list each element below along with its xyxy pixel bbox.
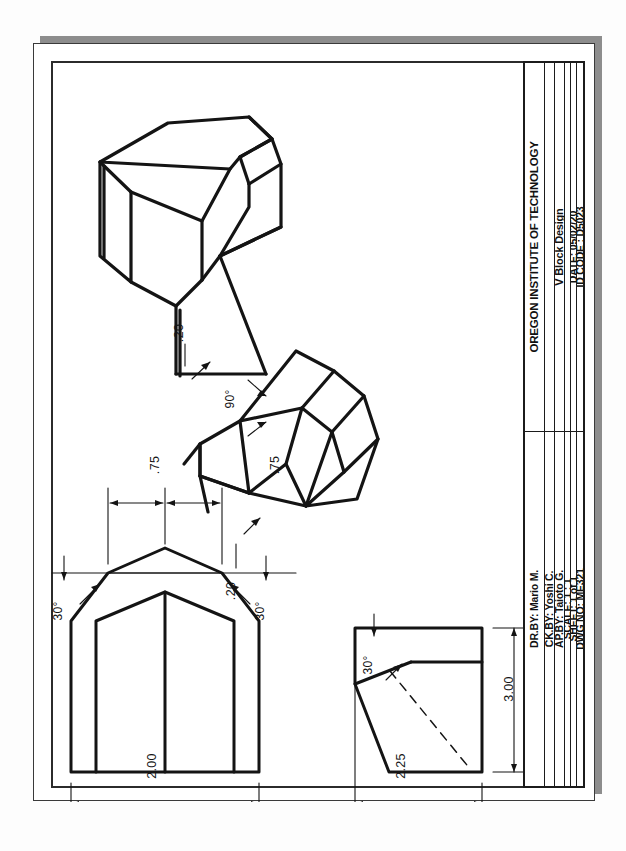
- dim-side-height: 3.00: [502, 676, 516, 702]
- title-block-column-6: ID CODE : D5023 DWG NO: ME321: [577, 63, 583, 786]
- title-block-column-3: V Block Design AP.BY: Taioto G.: [555, 63, 565, 786]
- drawing-sheet-root: .75 .75 2.00 30° 30° .20 90° .20 3.00 2.…: [0, 0, 626, 851]
- title-block-cell-drawing-title: V Block Design: [555, 63, 564, 432]
- date-label: DATE: 05/02/20: [571, 211, 576, 283]
- dim-chamfer-upper: .20: [172, 324, 186, 342]
- approved-by-label: AP.BY: Taioto G.: [555, 570, 564, 648]
- title-block-cell-id-code: ID CODE : D5023: [577, 63, 583, 432]
- title-block-cell-blank-upper-2: [565, 63, 570, 432]
- sheet-number-label: SHEET: 1 of 1: [571, 576, 576, 641]
- dim-side-angle: 30°: [361, 655, 375, 674]
- dim-front-right-width: .75: [268, 456, 282, 474]
- title-block-cell-sheet: SHEET: 1 of 1: [571, 432, 576, 786]
- organization-label: OREGON INSTITUTE OF TECHNOLOGY: [528, 141, 540, 352]
- dim-chamfer-lower: .20: [224, 582, 238, 600]
- title-block-column-1: OREGON INSTITUTE OF TECHNOLOGY DR.BY: Ma…: [525, 63, 545, 786]
- title-block-cell-dwg-number: DWG NO: ME321: [577, 432, 583, 786]
- title-block-cell-blank-upper: [545, 63, 554, 432]
- drawing-title-label: V Block Design: [555, 208, 564, 285]
- drawn-by-label: DR.BY: Mario M.: [528, 570, 540, 648]
- title-block-cell-date: DATE: 05/02/20: [571, 63, 576, 432]
- title-block-cell-approved-by: AP.BY: Taioto G.: [555, 432, 564, 786]
- dim-front-right-angle: 30°: [253, 601, 267, 620]
- title-block-column-2: CK.BY: Yoshi C.: [545, 63, 555, 786]
- dim-side-width: 2.25: [394, 753, 408, 779]
- dim-vee-angle: 90°: [223, 389, 237, 408]
- title-block: OREGON INSTITUTE OF TECHNOLOGY DR.BY: Ma…: [523, 61, 585, 788]
- title-block-cell-scale: SCALE: 1 : 1: [565, 432, 570, 786]
- scale-label: SCALE: 1 : 1: [565, 579, 570, 640]
- drawing-paper: .75 .75 2.00 30° 30° .20 90° .20 3.00 2.…: [33, 43, 595, 801]
- title-block-cell-checked-by: CK.BY: Yoshi C.: [545, 432, 554, 786]
- title-block-cell-drawn-by: DR.BY: Mario M.: [525, 432, 544, 786]
- dim-front-left-width: .75: [148, 456, 162, 474]
- dwg-number-label: DWG NO: ME321: [577, 568, 583, 649]
- dim-front-overall-width: 2.00: [145, 753, 159, 779]
- checked-by-label: CK.BY: Yoshi C.: [545, 571, 554, 647]
- dim-front-left-angle: 30°: [51, 601, 65, 620]
- title-block-cell-organization: OREGON INSTITUTE OF TECHNOLOGY: [525, 63, 544, 432]
- id-code-label: ID CODE : D5023: [577, 206, 583, 287]
